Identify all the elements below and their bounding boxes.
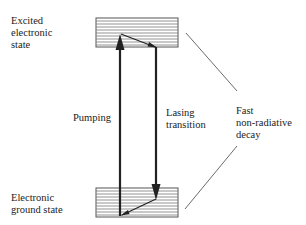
ground-decay-arrow xyxy=(121,199,157,216)
pumping-label: Pumping xyxy=(73,112,111,124)
decay-pointer-upper xyxy=(186,33,237,91)
decay-pointer-lower xyxy=(185,146,237,209)
decay-label: Fast non-radiative decay xyxy=(236,105,292,141)
lasing-arrow xyxy=(152,47,161,200)
pumping-arrow xyxy=(116,34,125,216)
excited-state-label: Excited electronic state xyxy=(11,15,52,51)
lasing-label: Lasing transition xyxy=(166,107,206,131)
ground-state-band xyxy=(96,188,178,217)
excited-state-band xyxy=(96,18,178,47)
ground-state-label: Electronic ground state xyxy=(11,192,63,216)
